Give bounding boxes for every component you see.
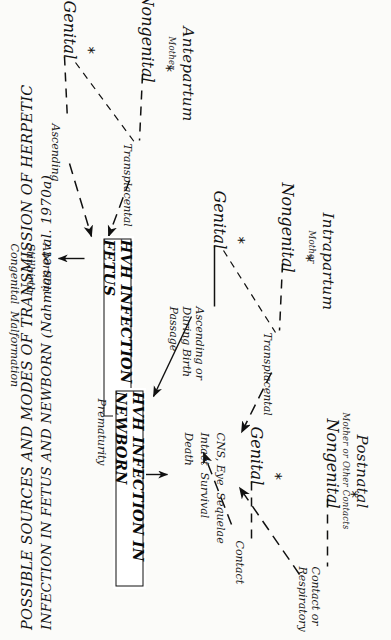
node-post-genital[interactable]: Genital bbox=[246, 426, 264, 485]
label-prematurity: Prematurity bbox=[94, 398, 107, 465]
edge-label-intra-transplacental: Transplacental bbox=[260, 332, 273, 415]
outcome-fetus-congenital-malformation: Congenital Malformation bbox=[5, 243, 21, 387]
edge-ante-nongenital-transplacental bbox=[139, 74, 142, 140]
asterisk-icon-intra-nongenital: * bbox=[297, 254, 312, 262]
asterisk-icon-ante-genital: * bbox=[79, 46, 94, 54]
edge-label-post-contact-respiratory: Contact or Respiratory bbox=[295, 566, 321, 631]
outcome-box-newborn[interactable]: HVH INFECTION IN NEWBORN bbox=[115, 390, 143, 586]
edge-ante-genital-transplacental bbox=[75, 62, 135, 143]
asterisk-icon-post-genital: * bbox=[266, 472, 281, 480]
diagram-stage: Antepartum Mother * Genital * Nongenital… bbox=[0, 0, 391, 640]
outcome-newborn-intact-survival: Intact Survival bbox=[195, 432, 211, 518]
arrow-ascending-to-fetus bbox=[69, 163, 91, 236]
edge-intra-genital-transplacental bbox=[223, 250, 275, 332]
outcome-fetus-abortion: Abortion bbox=[37, 243, 53, 292]
outcome-box-fetus[interactable]: HVH INFECTION IN FETUS bbox=[103, 238, 131, 416]
edge-label-intra-birth-passage: Ascending or During Birth Passage bbox=[165, 306, 205, 379]
edge-ante-genital-ascending bbox=[64, 56, 67, 120]
outcome-newborn-cns-eye-sequelae: CNS, Eye Sequelae bbox=[211, 432, 227, 543]
node-intra-genital[interactable]: Genital bbox=[209, 190, 227, 249]
node-post-nongenital[interactable]: Nongenital bbox=[322, 418, 340, 508]
figure-canvas: Antepartum Mother * Genital * Nongenital… bbox=[0, 0, 391, 640]
column-header-antepartum: Antepartum bbox=[178, 26, 195, 121]
arrow-contact-resp-to-newborn bbox=[239, 487, 299, 574]
node-ante-nongenital[interactable]: Nongenital bbox=[137, 0, 155, 82]
outcome-newborn-death: Death bbox=[179, 432, 195, 465]
outcome-fetus-stillbirth: Stillbirth bbox=[21, 243, 37, 293]
column-header-intrapartum: Intrapartum bbox=[318, 212, 335, 310]
node-ante-genital[interactable]: Genital bbox=[59, 0, 77, 59]
asterisk-icon-intra-genital: * bbox=[229, 236, 244, 244]
asterisk-icon-post-nongenital: * bbox=[342, 490, 357, 498]
edge-label-ante-ascending: Ascending bbox=[48, 123, 61, 181]
edge-intra-nongenital-transplacental bbox=[279, 263, 282, 330]
node-intra-nongenital[interactable]: Nongenital bbox=[277, 182, 295, 272]
edge-label-ante-transplacental: Transplacental bbox=[120, 143, 133, 226]
asterisk-icon-ante-nongenital: * bbox=[157, 64, 172, 72]
edge-label-post-contact: Contact bbox=[232, 540, 245, 584]
